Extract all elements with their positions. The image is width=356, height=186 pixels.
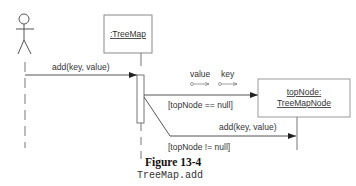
object-treemap-label: :TreeMap [110,29,146,39]
figure-caption-subtitle: TreeMap.add [137,170,203,181]
svg-text:key: key [221,69,235,79]
message-add-label: add(key, value) [52,62,110,72]
object-topnode-label-2: TreeMapNode [277,98,331,108]
guard-topnode-null: [topNode == null] [168,100,233,110]
param-value: value [190,69,211,86]
svg-text:value: value [190,69,211,79]
sequence-diagram: :TreeMap add(key, value) value key [topN… [0,0,356,186]
param-key: key [219,69,238,86]
object-topnode-label-1: topNode: [287,87,322,97]
object-treemap: :TreeMap [104,15,152,53]
message-add-topnode-label: add(key, value) [219,122,277,132]
treemap-activation-bar [137,75,144,123]
message-branch-diagonal [144,97,170,136]
guard-topnode-not-null: [topNode != null] [168,142,230,152]
figure-caption-title: Figure 13-4 [145,156,202,169]
actor-icon [16,14,34,54]
object-topnode: topNode: TreeMapNode [258,79,350,117]
